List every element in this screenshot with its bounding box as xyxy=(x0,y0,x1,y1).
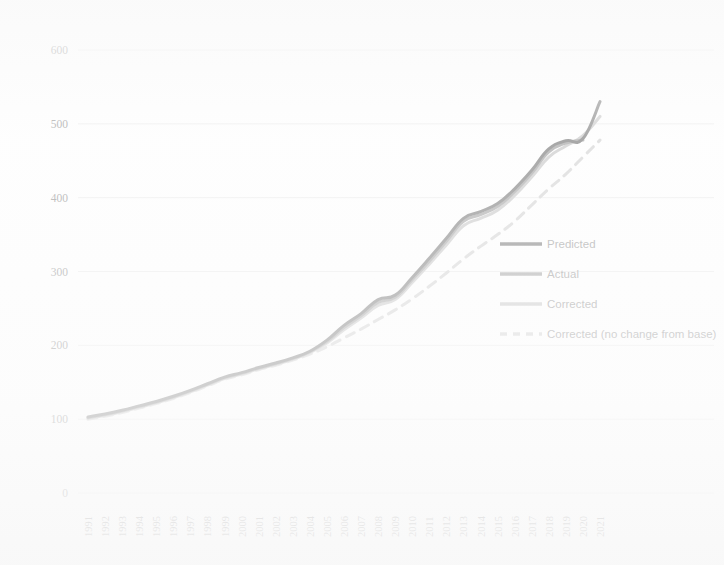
series-line-predicted xyxy=(88,102,600,417)
x-axis-tick-label: 1998 xyxy=(202,516,213,537)
x-axis-tick-label: 2016 xyxy=(510,516,521,537)
x-axis-tick-label: 1991 xyxy=(83,516,94,537)
x-axis-tick-label: 2013 xyxy=(458,516,469,537)
x-axis-tick-label: 2012 xyxy=(441,516,452,537)
series-line-actual xyxy=(88,140,583,418)
x-axis-tick-label: 2014 xyxy=(476,515,487,537)
x-axis-tick-label: 1993 xyxy=(117,516,128,537)
x-axis-tick-label: 2006 xyxy=(339,516,350,537)
x-axis-tick-label: 2007 xyxy=(356,516,367,537)
x-axis-tick-label: 2010 xyxy=(407,516,418,537)
chart-legend: PredictedActualCorrectedCorrected (no ch… xyxy=(500,238,717,340)
x-axis-tick-label: 2003 xyxy=(288,516,299,537)
x-axis-tick-label: 2005 xyxy=(322,516,333,537)
legend-label: Actual xyxy=(547,268,579,280)
x-axis-tick-label: 2018 xyxy=(544,516,555,537)
x-axis-tick-labels: 1991199219931994199519961997199819992000… xyxy=(83,515,606,537)
x-axis-tick-label: 1996 xyxy=(168,516,179,537)
x-axis-tick-label: 1995 xyxy=(151,516,162,537)
x-axis-tick-label: 2000 xyxy=(237,516,248,537)
x-axis-tick-label: 2002 xyxy=(271,516,282,537)
y-axis-tick-label: 300 xyxy=(51,266,69,278)
series-line-corrected xyxy=(88,116,600,418)
legend-label: Predicted xyxy=(547,238,596,250)
chart-container: 0100200300400500600 19911992199319941995… xyxy=(0,0,724,565)
x-axis-tick-label: 2019 xyxy=(561,516,572,537)
x-axis-tick-label: 2015 xyxy=(493,516,504,537)
gridlines xyxy=(78,50,714,493)
x-axis-tick-label: 1992 xyxy=(100,516,111,537)
x-axis-tick-label: 2009 xyxy=(390,516,401,537)
y-axis-tick-labels: 0100200300400500600 xyxy=(51,44,69,499)
y-axis-tick-label: 600 xyxy=(51,44,69,56)
x-axis-tick-label: 2008 xyxy=(373,516,384,537)
y-axis-tick-label: 500 xyxy=(51,118,69,130)
x-axis-tick-label: 2011 xyxy=(424,516,435,537)
legend-label: Corrected xyxy=(547,298,598,310)
x-axis-tick-label: 1997 xyxy=(185,516,196,537)
x-axis-tick-label: 1994 xyxy=(134,515,145,537)
y-axis-tick-label: 200 xyxy=(51,339,69,351)
x-axis-tick-label: 2004 xyxy=(305,515,316,537)
x-axis-tick-label: 2020 xyxy=(578,516,589,537)
line-chart: 0100200300400500600 19911992199319941995… xyxy=(0,0,724,565)
x-axis-tick-label: 2001 xyxy=(254,516,265,537)
x-axis-tick-label: 1999 xyxy=(220,516,231,537)
y-axis-tick-label: 0 xyxy=(62,487,68,499)
legend-label: Corrected (no change from base) xyxy=(547,328,717,340)
y-axis-tick-label: 100 xyxy=(51,413,69,425)
x-axis-tick-label: 2021 xyxy=(595,516,606,537)
x-axis-tick-label: 2017 xyxy=(527,516,538,537)
data-series-group xyxy=(88,102,600,419)
y-axis-tick-label: 400 xyxy=(51,192,69,204)
